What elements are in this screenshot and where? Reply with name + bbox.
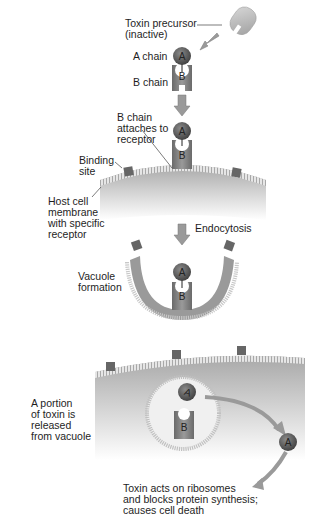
svg-text:A: A: [179, 267, 186, 278]
label-toxin-effect: Toxin acts on ribosomes and blocks prote…: [123, 483, 258, 516]
label-host-cell-membrane: Host cell membrane with specific recepto…: [48, 196, 105, 240]
receptor-icon: [106, 362, 115, 371]
receptor-icon: [237, 346, 246, 355]
arrow-icon: [174, 224, 190, 245]
svg-text:B: B: [179, 71, 186, 82]
label-b-chain-attaches: B chain attaches to receptor: [117, 112, 168, 145]
arrow-icon: [174, 95, 190, 116]
receptor-icon: [224, 240, 236, 252]
label-endocytosis: Endocytosis: [195, 223, 252, 234]
receptor-icon: [123, 166, 133, 176]
svg-text:A: A: [285, 437, 292, 448]
receptor-icon: [172, 350, 181, 359]
label-toxin-precursor: Toxin precursor (inactive): [125, 18, 197, 40]
a-chain-released: A: [279, 433, 297, 451]
svg-text:A: A: [179, 51, 186, 62]
vacuole-formation: A B: [127, 240, 237, 320]
svg-text:A: A: [179, 126, 186, 137]
label-a-chain: A chain: [133, 51, 167, 62]
receptor-icon: [231, 167, 241, 177]
label-binding-site: Binding site: [79, 155, 114, 177]
a-chain-in-vacuole: A: [178, 383, 196, 401]
label-toxin-released: A portion of toxin is released from vacu…: [31, 398, 91, 442]
ab-toxin-1: A B: [172, 47, 192, 92]
svg-text:B: B: [179, 291, 186, 302]
label-vacuole-formation: Vacuole formation: [78, 271, 122, 293]
toxin-precursor-icon: [225, 3, 260, 39]
svg-text:B: B: [179, 150, 186, 161]
arrow-icon: [200, 33, 219, 50]
ab-toxin-2: A B: [172, 122, 192, 169]
b-chain-in-vacuole: B: [174, 408, 194, 439]
receptor-icon: [131, 240, 143, 252]
svg-text:B: B: [181, 422, 188, 433]
label-b-chain: B chain: [133, 77, 168, 88]
